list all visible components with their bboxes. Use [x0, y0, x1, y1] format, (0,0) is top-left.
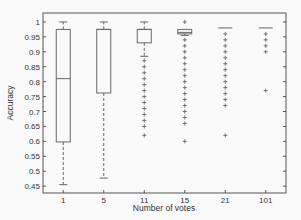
- outlier-marker: [142, 83, 146, 87]
- iqr-box: [137, 29, 151, 42]
- outlier-marker: [183, 38, 187, 42]
- outlier-marker: [223, 92, 227, 96]
- box-series: [56, 20, 273, 185]
- box-5: [97, 22, 111, 178]
- y-tick-label: 0.6: [29, 137, 41, 146]
- box-101: [259, 28, 273, 93]
- outlier-marker: [183, 44, 187, 48]
- outlier-marker: [142, 59, 146, 63]
- outlier-marker: [183, 86, 187, 90]
- outlier-marker: [183, 98, 187, 102]
- y-tick-label: 0.55: [24, 152, 40, 161]
- plot-area: 0.450.50.550.60.650.70.750.80.850.90.951…: [0, 0, 301, 220]
- y-tick-label: 0.8: [29, 78, 41, 87]
- outlier-marker: [142, 124, 146, 128]
- outlier-marker: [223, 44, 227, 48]
- outlier-marker: [183, 104, 187, 108]
- axes-frame: [43, 13, 286, 193]
- outlier-marker: [264, 50, 268, 54]
- iqr-box: [56, 29, 70, 142]
- y-tick-label: 0.7: [29, 108, 41, 117]
- outlier-marker: [142, 95, 146, 99]
- y-tick-label: 0.5: [29, 167, 41, 176]
- outlier-marker: [264, 32, 268, 36]
- outlier-marker: [223, 68, 227, 72]
- outlier-marker: [183, 56, 187, 60]
- x-tick-label: 21: [221, 196, 230, 205]
- outlier-marker: [223, 32, 227, 36]
- x-axis-label: Number of votes: [133, 203, 195, 213]
- outlier-marker: [142, 65, 146, 69]
- outlier-marker: [183, 80, 187, 84]
- outlier-marker: [142, 71, 146, 75]
- x-tick-label: 5: [102, 196, 107, 205]
- outlier-marker: [223, 74, 227, 78]
- outlier-marker: [223, 50, 227, 54]
- outlier-marker: [264, 38, 268, 42]
- y-tick-label: 0.75: [24, 93, 40, 102]
- outlier-marker: [223, 62, 227, 66]
- box-plot-chart: 0.450.50.550.60.650.70.750.80.850.90.951…: [0, 0, 301, 220]
- outlier-marker: [142, 133, 146, 137]
- outlier-marker: [264, 44, 268, 48]
- outlier-marker: [183, 139, 187, 143]
- y-tick-label: 0.45: [24, 182, 40, 191]
- outlier-marker: [223, 133, 227, 137]
- outlier-marker: [183, 68, 187, 72]
- y-tick-label: 0.85: [24, 63, 40, 72]
- y-tick-label: 0.95: [24, 33, 40, 42]
- y-tick-label: 0.65: [24, 122, 40, 131]
- box-11: [137, 22, 151, 137]
- outlier-marker: [223, 80, 227, 84]
- outlier-marker: [223, 104, 227, 108]
- iqr-box: [178, 29, 192, 33]
- y-axis-label: Accuracy: [5, 85, 15, 121]
- outlier-marker: [223, 98, 227, 102]
- outlier-marker: [142, 101, 146, 105]
- box-1: [56, 22, 70, 185]
- box-21: [218, 28, 232, 137]
- outlier-marker: [142, 112, 146, 116]
- y-tick-label: 0.9: [29, 48, 41, 57]
- y-axis: 0.450.50.550.60.650.70.750.80.850.90.951: [24, 18, 286, 191]
- outlier-marker: [183, 62, 187, 66]
- outlier-marker: [183, 115, 187, 119]
- outlier-marker: [183, 92, 187, 96]
- outlier-marker: [183, 20, 187, 24]
- outlier-marker: [183, 74, 187, 78]
- outlier-marker: [142, 118, 146, 122]
- outlier-marker: [223, 86, 227, 90]
- outlier-marker: [142, 77, 146, 81]
- outlier-marker: [223, 56, 227, 60]
- y-tick-label: 1: [36, 18, 41, 27]
- x-tick-label: 1: [61, 196, 66, 205]
- outlier-marker: [142, 107, 146, 111]
- outlier-marker: [223, 38, 227, 42]
- outlier-marker: [264, 89, 268, 93]
- x-tick-label: 101: [259, 196, 273, 205]
- outlier-marker: [183, 121, 187, 125]
- outlier-marker: [183, 50, 187, 54]
- outlier-marker: [183, 110, 187, 114]
- outlier-marker: [142, 89, 146, 93]
- box-15: [178, 20, 192, 143]
- iqr-box: [97, 29, 111, 93]
